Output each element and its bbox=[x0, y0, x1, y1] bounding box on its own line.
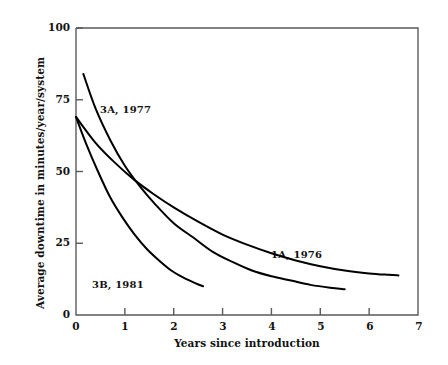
data-curves bbox=[76, 74, 398, 289]
axis-frame bbox=[76, 28, 418, 315]
plot-frame bbox=[76, 28, 418, 315]
axis-ticks bbox=[76, 28, 369, 315]
series-curve-1a-1976 bbox=[76, 117, 398, 275]
chart-figure: Average downtime in minutes/year/system … bbox=[0, 0, 448, 365]
series-curve-3a-1977 bbox=[83, 74, 344, 289]
plot-area bbox=[0, 0, 448, 365]
